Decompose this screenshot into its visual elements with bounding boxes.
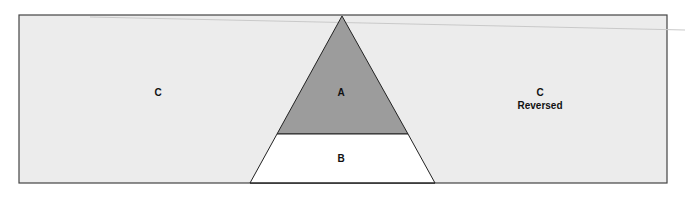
label-b: B: [337, 153, 344, 164]
diagram-canvas: C A B C Reversed: [0, 0, 685, 198]
triangle-diagram: C A B C Reversed: [0, 0, 685, 198]
label-a: A: [337, 87, 344, 98]
label-right-c: C: [536, 87, 543, 98]
label-left-c: C: [154, 87, 161, 98]
label-right-reversed: Reversed: [517, 100, 562, 111]
